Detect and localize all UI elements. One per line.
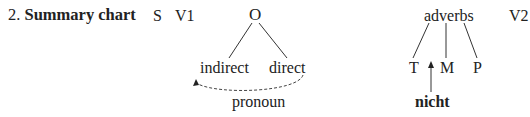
nicht-arrowhead <box>428 61 434 68</box>
pronoun-arc <box>198 75 303 90</box>
adverb-time-label: T <box>409 60 419 76</box>
verb2-label: V2 <box>509 8 529 24</box>
verb1-label: V1 <box>175 8 195 24</box>
adverb-place-label: P <box>473 60 482 76</box>
adverb-manner-label: M <box>440 60 454 76</box>
tree-line-adverbs-p <box>464 23 477 58</box>
adverbs-label: adverbs <box>424 8 474 24</box>
pronoun-arrowhead <box>193 79 199 86</box>
indirect-object-label: indirect <box>200 60 249 76</box>
direct-object-label: direct <box>269 60 305 76</box>
nicht-label: nicht <box>415 94 450 110</box>
object-label: O <box>249 6 261 23</box>
tree-line-adverbs-t <box>413 23 429 58</box>
pronoun-note: pronoun <box>232 94 285 110</box>
subject-label: S <box>153 8 162 24</box>
tree-line-o-direct <box>259 23 287 58</box>
tree-line-o-indirect <box>229 23 252 58</box>
